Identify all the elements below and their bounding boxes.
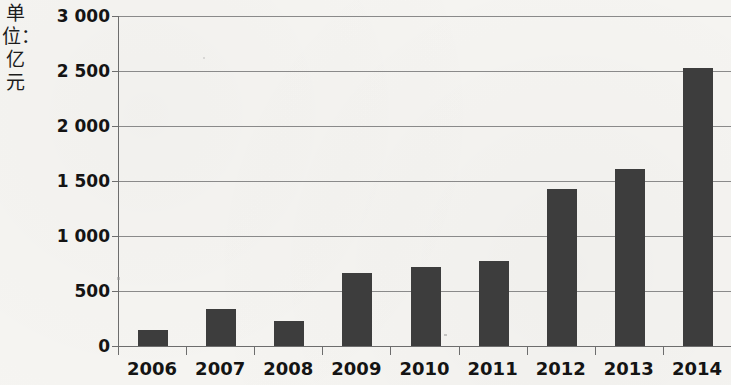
y-axis-tick-label: 2 000 (38, 116, 110, 136)
y-axis-tick (112, 181, 119, 182)
x-axis-tick-label: 2009 (331, 358, 381, 379)
bar (411, 267, 441, 346)
y-axis-tick-label: 1 500 (38, 171, 110, 191)
bar (615, 169, 645, 346)
y-axis-tick-label: 0 (38, 336, 110, 356)
scan-speck (117, 277, 120, 280)
y-axis-unit-label: 单位：亿元 (2, 2, 28, 94)
x-axis-tick-label: 2012 (536, 358, 586, 379)
y-axis-tick-label: 3 000 (38, 6, 110, 26)
bar (138, 330, 168, 346)
scan-speck (203, 57, 205, 59)
x-axis-tick (527, 347, 528, 355)
bar (274, 321, 304, 346)
y-axis-tick-label: 1 000 (38, 226, 110, 246)
x-axis-tick-label: 2006 (127, 358, 177, 379)
y-axis-tick (112, 16, 119, 17)
y-axis-tick (112, 126, 119, 127)
y-axis-tick-labels: 05001 0001 5002 0002 5003 000 (28, 0, 110, 385)
x-axis-tick-label: 2010 (399, 358, 449, 379)
x-axis-tick-label: 2007 (195, 358, 245, 379)
x-axis-tick (186, 347, 187, 355)
x-axis-tick (390, 347, 391, 355)
y-axis-tick-label: 2 500 (38, 61, 110, 81)
bar (342, 273, 372, 346)
x-axis-tick-label: 2011 (468, 358, 518, 379)
bar-chart-figure: 单位：亿元 05001 0001 5002 0002 5003 000 2006… (0, 0, 731, 385)
bar (206, 309, 236, 346)
y-axis-tick (112, 291, 119, 292)
x-axis-tick-label: 2008 (263, 358, 313, 379)
y-axis-tick (112, 71, 119, 72)
bar (547, 189, 577, 346)
x-axis-tick-label: 2014 (672, 358, 722, 379)
x-axis-tick (663, 347, 664, 355)
x-axis-tick-label: 2013 (604, 358, 654, 379)
y-axis-tick (112, 236, 119, 237)
x-axis-tick (322, 347, 323, 355)
bar-series (119, 16, 731, 346)
x-axis-tick (118, 347, 119, 355)
x-axis: 200620072008200920102011201220132014 (118, 346, 731, 385)
bar (683, 68, 713, 346)
bar (479, 261, 509, 346)
x-axis-tick (254, 347, 255, 355)
x-axis-tick (595, 347, 596, 355)
x-axis-tick (459, 347, 460, 355)
scan-speck (444, 334, 447, 336)
y-axis-tick-label: 500 (38, 281, 110, 301)
